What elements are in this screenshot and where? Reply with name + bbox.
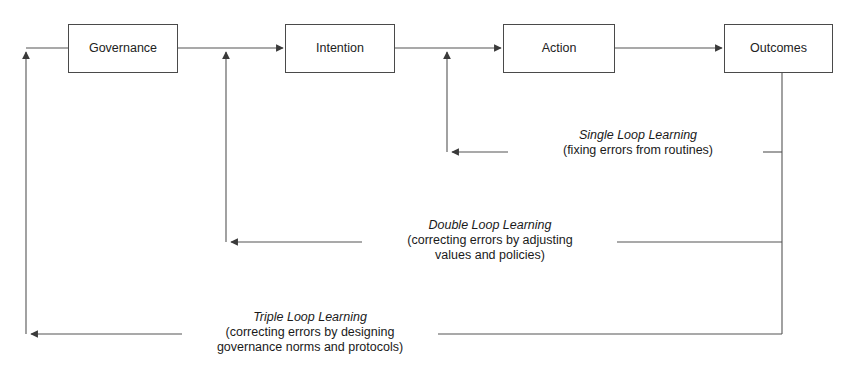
caption-triple-loop-subtitle-line1: (correcting errors by designing	[187, 325, 433, 340]
caption-single-loop: Single Loop Learning (fixing errors from…	[513, 128, 763, 158]
caption-double-loop-title: Double Loop Learning	[368, 218, 612, 233]
diagram-canvas: Governance Intention Action Outcomes Sin…	[0, 0, 847, 368]
caption-single-loop-subtitle: (fixing errors from routines)	[518, 143, 758, 158]
node-governance[interactable]: Governance	[68, 24, 178, 73]
node-action-label: Action	[542, 42, 577, 56]
caption-triple-loop-subtitle-line2: governance norms and protocols)	[187, 340, 433, 355]
node-action[interactable]: Action	[503, 24, 615, 73]
caption-triple-loop: Triple Loop Learning (correcting errors …	[182, 310, 438, 355]
caption-double-loop-subtitle-line1: (correcting errors by adjusting	[368, 233, 612, 248]
node-intention[interactable]: Intention	[285, 24, 395, 73]
node-outcomes[interactable]: Outcomes	[724, 24, 833, 73]
node-intention-label: Intention	[316, 42, 364, 56]
caption-single-loop-title: Single Loop Learning	[518, 128, 758, 143]
caption-triple-loop-title: Triple Loop Learning	[187, 310, 433, 325]
node-outcomes-label: Outcomes	[750, 42, 807, 56]
caption-double-loop: Double Loop Learning (correcting errors …	[363, 218, 617, 263]
caption-double-loop-subtitle-line2: values and policies)	[368, 248, 612, 263]
node-governance-label: Governance	[89, 42, 157, 56]
